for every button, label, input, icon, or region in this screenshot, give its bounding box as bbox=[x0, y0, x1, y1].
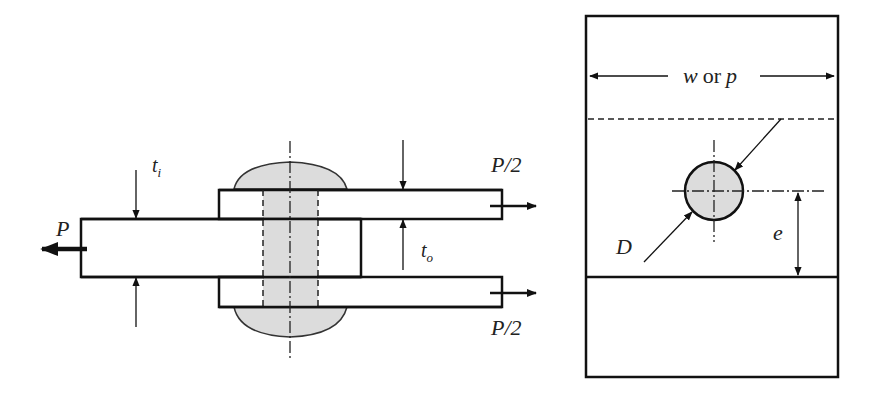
label-to: to bbox=[421, 239, 434, 265]
label-edge-distance: e bbox=[773, 220, 783, 245]
outer-plate-bottom bbox=[219, 277, 502, 307]
double-shear-joint-diagram: P P/2 P/2 ti to worp D e bbox=[0, 0, 880, 397]
outer-plate-top bbox=[219, 190, 502, 219]
label-width-or-pitch: worp bbox=[683, 63, 737, 88]
plan-view: worp D e bbox=[586, 16, 838, 377]
label-load-half-bottom: P/2 bbox=[490, 315, 522, 340]
label-load-p: P bbox=[55, 216, 69, 241]
diameter-leader-bottom bbox=[644, 212, 692, 262]
label-ti: ti bbox=[152, 154, 162, 180]
side-view: P P/2 P/2 ti to bbox=[42, 140, 536, 360]
label-diameter: D bbox=[615, 234, 632, 259]
label-load-half-top: P/2 bbox=[490, 152, 522, 177]
inner-plate bbox=[81, 219, 361, 277]
diameter-leader-top bbox=[735, 119, 781, 170]
